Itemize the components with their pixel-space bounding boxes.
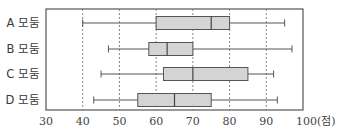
box-row-c <box>101 68 274 81</box>
x-tick-label: 30 <box>39 115 53 128</box>
x-tick-label: 50 <box>112 115 126 128</box>
category-label: D 모둠 <box>5 93 40 107</box>
iqr-box <box>156 17 229 30</box>
box-row-d <box>94 94 278 107</box>
category-labels: A 모둠B 모둠C 모둠D 모둠 <box>5 16 40 107</box>
category-label: A 모둠 <box>6 16 40 30</box>
box-row-a <box>83 17 285 30</box>
x-tick-label: 40 <box>76 115 90 128</box>
box-plot-chart: A 모둠B 모둠C 모둠D 모둠 30405060708090100(점) <box>0 0 337 134</box>
category-label: B 모둠 <box>6 42 40 56</box>
iqr-box <box>149 43 193 56</box>
x-tick-label: 70 <box>186 115 200 128</box>
x-axis-ticks: 30405060708090100(점) <box>39 115 336 128</box>
x-tick-label: 90 <box>259 115 273 128</box>
iqr-box <box>163 68 247 81</box>
x-tick-label: 80 <box>223 115 237 128</box>
category-label: C 모둠 <box>6 67 40 81</box>
boxes <box>83 17 292 107</box>
x-tick-label: 60 <box>149 115 163 128</box>
x-tick-label: 100(점) <box>296 115 336 128</box>
box-row-b <box>108 43 292 56</box>
